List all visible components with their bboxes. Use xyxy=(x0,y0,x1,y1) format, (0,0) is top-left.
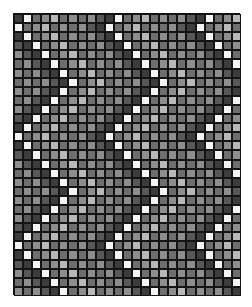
grid-cell xyxy=(132,260,141,269)
grid-cell xyxy=(32,223,41,232)
grid-cell xyxy=(150,250,159,259)
grid-cell xyxy=(141,32,150,41)
grid-cell xyxy=(232,260,241,269)
grid-cell xyxy=(150,141,159,150)
grid-cell xyxy=(177,187,186,196)
grid-cell xyxy=(196,250,205,259)
grid-cell xyxy=(50,250,59,259)
grid-cell xyxy=(87,196,96,205)
grid-cell xyxy=(50,205,59,214)
grid-cell xyxy=(59,241,68,250)
grid-cell xyxy=(14,50,23,59)
grid-cell xyxy=(168,32,177,41)
grid-cell xyxy=(87,287,96,296)
grid-cell xyxy=(59,169,68,178)
grid-cell xyxy=(32,50,41,59)
grid-cell xyxy=(32,178,41,187)
grid-cell xyxy=(41,150,50,159)
grid-cell xyxy=(123,78,132,87)
grid-cell xyxy=(205,123,214,132)
grid-cell xyxy=(196,59,205,68)
grid-cell xyxy=(141,232,150,241)
grid-cell xyxy=(41,287,50,296)
grid-cell xyxy=(132,160,141,169)
grid-cell xyxy=(123,223,132,232)
grid-cell xyxy=(141,132,150,141)
grid-cell xyxy=(196,23,205,32)
grid-cell xyxy=(68,260,77,269)
grid-cell xyxy=(223,59,232,68)
grid-cell xyxy=(141,78,150,87)
grid-cell xyxy=(114,78,123,87)
grid-cell xyxy=(114,50,123,59)
grid-cell xyxy=(50,96,59,105)
grid-cell xyxy=(223,150,232,159)
grid-cell xyxy=(186,96,195,105)
grid-cell xyxy=(150,14,159,23)
grid-cell xyxy=(14,269,23,278)
grid-cell xyxy=(114,278,123,287)
grid-cell xyxy=(132,41,141,50)
chevron-tile-grid xyxy=(13,13,240,295)
grid-cell xyxy=(114,114,123,123)
grid-cell xyxy=(223,169,232,178)
grid-cell xyxy=(159,23,168,32)
grid-cell xyxy=(168,214,177,223)
grid-cell xyxy=(41,32,50,41)
grid-cell xyxy=(159,187,168,196)
grid-cell xyxy=(232,78,241,87)
grid-cell xyxy=(177,23,186,32)
grid-cell xyxy=(177,223,186,232)
grid-cell xyxy=(105,14,114,23)
grid-cell xyxy=(186,50,195,59)
grid-cell xyxy=(223,260,232,269)
grid-cell xyxy=(68,250,77,259)
grid-cell xyxy=(159,14,168,23)
grid-cell xyxy=(177,278,186,287)
grid-cell xyxy=(96,114,105,123)
grid-cell xyxy=(114,223,123,232)
grid-cell xyxy=(132,214,141,223)
grid-cell xyxy=(105,214,114,223)
grid-cell xyxy=(41,232,50,241)
grid-cell xyxy=(14,250,23,259)
grid-cell xyxy=(105,187,114,196)
grid-cell xyxy=(78,169,87,178)
grid-cell xyxy=(150,241,159,250)
grid-cell xyxy=(168,23,177,32)
grid-cell xyxy=(205,32,214,41)
grid-cell xyxy=(132,69,141,78)
grid-cell xyxy=(78,205,87,214)
grid-cell xyxy=(96,278,105,287)
grid-cell xyxy=(41,14,50,23)
grid-cell xyxy=(141,59,150,68)
grid-cell xyxy=(214,87,223,96)
grid-cell xyxy=(32,78,41,87)
grid-cell xyxy=(14,187,23,196)
grid-cell xyxy=(96,87,105,96)
grid-cell xyxy=(132,278,141,287)
grid-cell xyxy=(214,232,223,241)
grid-cell xyxy=(68,169,77,178)
grid-cell xyxy=(214,114,223,123)
grid-cell xyxy=(168,250,177,259)
grid-cell xyxy=(186,160,195,169)
grid-cell xyxy=(87,32,96,41)
grid-cell xyxy=(59,114,68,123)
grid-cell xyxy=(159,169,168,178)
grid-cell xyxy=(196,50,205,59)
grid-cell xyxy=(223,105,232,114)
grid-cell xyxy=(96,59,105,68)
grid-cell xyxy=(205,232,214,241)
grid-cell xyxy=(50,123,59,132)
grid-cell xyxy=(59,78,68,87)
grid-cell xyxy=(68,214,77,223)
grid-cell xyxy=(87,87,96,96)
grid-cell xyxy=(123,241,132,250)
grid-cell xyxy=(223,278,232,287)
grid-cell xyxy=(123,160,132,169)
grid-cell xyxy=(214,32,223,41)
grid-cell xyxy=(68,32,77,41)
grid-cell xyxy=(177,250,186,259)
grid-cell xyxy=(232,223,241,232)
